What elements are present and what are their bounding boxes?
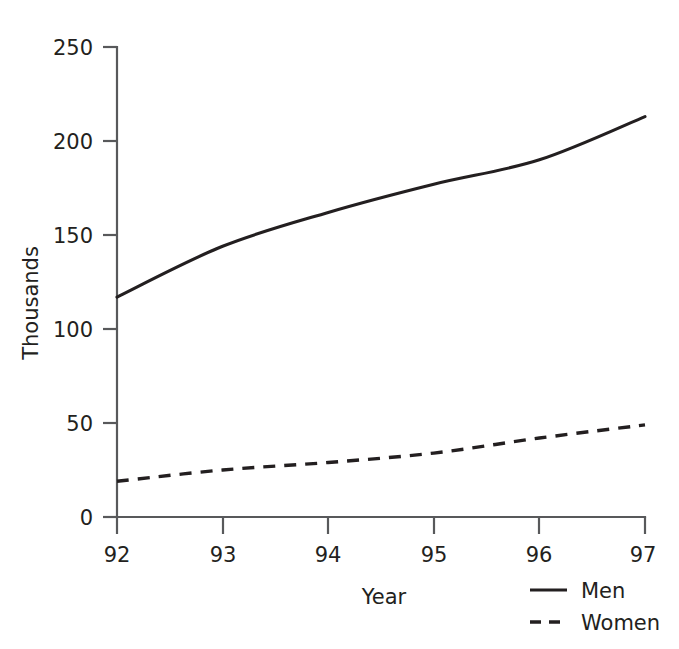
y-tick-label-200: 200 [53,130,93,154]
y-tick-label-50: 50 [66,412,93,436]
y-tick-label-100: 100 [53,318,93,342]
x-axis-ticks [117,517,645,534]
legend-label-women: Women [581,611,660,635]
x-tick-label-93: 93 [210,543,237,567]
axis-lines [117,47,645,517]
series-line-men [117,117,645,297]
x-axis-tick-labels: 92 93 94 95 96 97 [104,543,657,567]
x-tick-label-97: 97 [630,543,657,567]
x-tick-label-96: 96 [526,543,553,567]
series-line-women [117,425,645,481]
y-tick-label-0: 0 [80,506,93,530]
data-series-group [117,117,645,482]
chart-legend: Men Women [530,579,660,635]
y-tick-label-150: 150 [53,224,93,248]
y-axis-title: Thousands [19,246,43,361]
x-tick-label-95: 95 [421,543,448,567]
x-tick-label-94: 94 [315,543,342,567]
legend-label-men: Men [581,579,625,603]
y-axis-tick-labels: 250 200 150 100 50 0 [53,36,93,530]
line-chart-figure: 250 200 150 100 50 0 92 93 94 95 96 97 [0,0,679,649]
y-tick-label-250: 250 [53,36,93,60]
x-tick-label-92: 92 [104,543,131,567]
chart-canvas: 250 200 150 100 50 0 92 93 94 95 96 97 [0,0,679,649]
x-axis-title: Year [361,585,407,609]
y-axis-ticks [103,47,117,517]
